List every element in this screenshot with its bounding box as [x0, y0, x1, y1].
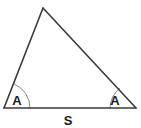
geometry-figure-canvas: A A S	[0, 0, 141, 128]
triangle-diagram: A A S	[0, 0, 141, 128]
triangle-side-right	[43, 8, 136, 108]
angle-label-left: A	[12, 93, 22, 108]
triangle-side-left	[4, 8, 43, 108]
base-side-label: S	[64, 113, 73, 128]
angle-label-right: A	[110, 93, 120, 108]
